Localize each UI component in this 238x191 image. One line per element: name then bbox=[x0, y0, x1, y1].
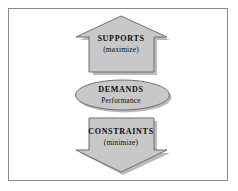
demands-ellipse-shape bbox=[76, 80, 170, 110]
diagram-shape-canvas bbox=[0, 0, 238, 191]
supports-arrow-shape bbox=[76, 16, 167, 72]
constraints-arrow-shape bbox=[76, 118, 167, 172]
diagram-root: SUPPORTS (maximize) DEMANDS Performance … bbox=[0, 0, 238, 191]
